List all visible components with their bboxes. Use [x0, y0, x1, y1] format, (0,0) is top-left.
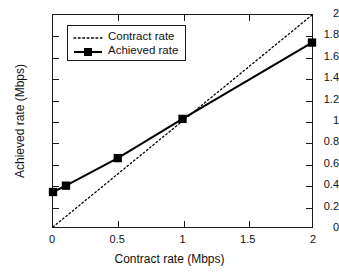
y-axis-title: Achieved rate (Mbps): [12, 14, 28, 228]
legend-item: Contract rate: [73, 29, 178, 43]
x-tick-label: 2: [310, 234, 316, 245]
x-tick-mark: [118, 221, 119, 227]
y-tick-label: 1.6: [293, 51, 339, 62]
x-tick-label: 1: [179, 234, 185, 245]
legend-item: Achieved rate: [73, 43, 178, 57]
plot-area: Contract rateAchieved rate: [52, 14, 313, 228]
data-point-marker: [178, 115, 186, 123]
y-tick-label: 2: [293, 8, 339, 19]
y-tick-mark: [53, 186, 59, 187]
y-tick-mark: [53, 79, 59, 80]
legend-label: Achieved rate: [108, 44, 178, 56]
x-tick-mark: [184, 221, 185, 227]
y-tick-label: 0.4: [293, 179, 339, 190]
y-tick-label: 0.8: [293, 136, 339, 147]
y-tick-label: 0.2: [293, 201, 339, 212]
y-tick-label: 1.4: [293, 72, 339, 83]
y-tick-mark: [53, 165, 59, 166]
y-tick-mark: [53, 208, 59, 209]
x-tick-label: 1.5: [240, 234, 255, 245]
y-tick-label: 0: [293, 222, 339, 233]
legend-line-sample-icon: [73, 30, 103, 42]
x-tick-label: 0: [49, 234, 55, 245]
x-tick-label: 0.5: [110, 234, 125, 245]
x-axis-title: Contract rate (Mbps): [0, 252, 339, 266]
y-tick-mark: [53, 101, 59, 102]
y-tick-label: 1.2: [293, 94, 339, 105]
data-point-marker: [49, 188, 57, 196]
chart-legend: Contract rateAchieved rate: [67, 25, 186, 61]
y-tick-label: 1.8: [293, 29, 339, 40]
legend-label: Contract rate: [108, 30, 174, 42]
y-tick-label: 0.6: [293, 158, 339, 169]
chart-figure: Contract rateAchieved rate 00.20.40.60.8…: [0, 0, 339, 276]
y-tick-mark: [53, 36, 59, 37]
y-tick-mark: [53, 122, 59, 123]
y-tick-label: 1: [293, 115, 339, 126]
data-point-marker: [114, 154, 122, 162]
x-tick-mark: [184, 15, 185, 21]
legend-line-sample-icon: [73, 44, 103, 56]
data-point-marker: [62, 181, 70, 189]
y-tick-mark: [53, 58, 59, 59]
x-tick-mark: [118, 15, 119, 21]
x-tick-mark: [249, 15, 250, 21]
y-tick-mark: [53, 143, 59, 144]
x-tick-mark: [249, 221, 250, 227]
